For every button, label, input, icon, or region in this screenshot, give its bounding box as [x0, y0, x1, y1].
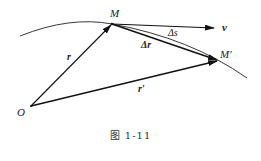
label-r: r	[67, 52, 71, 62]
vector-r-prime	[31, 61, 217, 106]
label-M-prime: M′	[220, 49, 232, 60]
point-O	[30, 105, 32, 107]
figure-caption: 图 1-11	[0, 127, 261, 142]
label-O: O	[17, 107, 25, 118]
label-delta-s: Δs	[168, 28, 178, 38]
label-M: M	[110, 8, 119, 19]
label-delta-r: Δr	[141, 40, 151, 50]
label-r-prime: r′	[138, 84, 145, 94]
point-M	[111, 23, 114, 26]
label-v: v	[222, 22, 227, 33]
vector-delta-r	[112, 24, 217, 60]
vector-r	[31, 25, 111, 106]
trajectory-curve	[20, 22, 247, 78]
